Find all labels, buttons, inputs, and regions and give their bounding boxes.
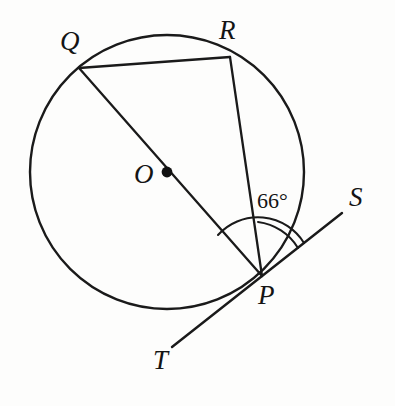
point-label-Q: Q	[60, 28, 80, 55]
point-label-R: R	[219, 17, 236, 44]
point-label-O: O	[134, 161, 154, 188]
point-label-T: T	[153, 347, 168, 374]
segment-TS-tangent	[172, 213, 342, 347]
point-label-P: P	[258, 282, 275, 309]
geometry-figure: Q R O P S T 66°	[0, 0, 395, 406]
point-label-S: S	[349, 184, 363, 211]
segment-QR-chord	[79, 57, 230, 68]
angle-measure-label: 66°	[257, 190, 288, 212]
segment-RP-chord	[230, 57, 262, 276]
center-point-dot	[162, 167, 173, 178]
geometry-canvas	[0, 0, 395, 406]
